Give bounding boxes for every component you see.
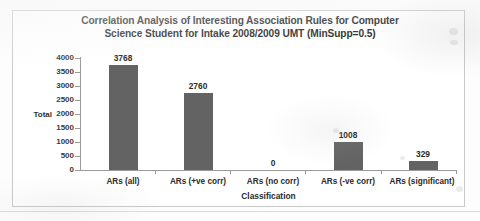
y-tick-label-3000: 3000 [34,82,74,90]
category-label-ars-all: ARs (all) [83,177,163,186]
page-edge-rule [0,211,480,212]
chart-title-line-1: Correlation Analysis of Interesting Asso… [28,14,452,27]
bar-ars-significant [409,161,438,170]
y-tick-3000 [75,86,80,87]
y-tick-2000 [75,114,80,115]
x-tick-1 [155,170,156,174]
y-tick-4000 [75,58,80,59]
bar-value-ars-neg-corr: 1008 [318,131,378,140]
x-tick-3 [305,170,306,174]
y-tick-1000 [75,142,80,143]
y-tick-0 [75,170,80,171]
category-label-ars-neg-corr: ARs (-ve corr) [308,177,388,186]
category-label-ars-no-corr: ARs (no corr) [233,177,313,186]
y-tick-label-4000: 4000 [34,54,74,62]
chart-title: Correlation Analysis of Interesting Asso… [28,14,452,40]
scanned-page: Correlation Analysis of Interesting Asso… [0,0,480,221]
y-axis-line [80,57,81,171]
category-label-ars-significant: ARs (significant) [382,177,462,186]
bar-value-ars-significant: 329 [393,150,453,159]
bar-ars-all [109,65,138,171]
y-tick-label-2000: 2000 [34,110,74,118]
y-tick-3500 [75,72,80,73]
category-label-ars-pos-corr: ARs (+ve corr) [158,177,238,186]
y-tick-2500 [75,100,80,101]
y-tick-500 [75,156,80,157]
y-tick-label-0: 0 [34,166,74,174]
bar-ars-pos-corr [184,93,213,170]
y-tick-label-3500: 3500 [34,68,74,76]
y-tick-label-500: 500 [34,152,74,160]
bar-value-ars-no-corr: 0 [243,159,303,168]
x-axis-title: Classification [80,191,457,201]
x-tick-2 [230,170,231,174]
y-tick-label-1000: 1000 [34,138,74,146]
y-tick-label-2500: 2500 [34,96,74,104]
y-tick-1500 [75,128,80,129]
y-tick-label-1500: 1500 [34,124,74,132]
x-axis-line [80,170,457,171]
bar-value-ars-all: 3768 [93,54,153,63]
bar-ars-neg-corr [334,142,363,170]
x-tick-4 [381,170,382,174]
bar-value-ars-pos-corr: 2760 [168,82,228,91]
chart-title-line-2: Science Student for Intake 2008/2009 UMT… [28,27,452,40]
x-tick-5 [456,170,457,174]
